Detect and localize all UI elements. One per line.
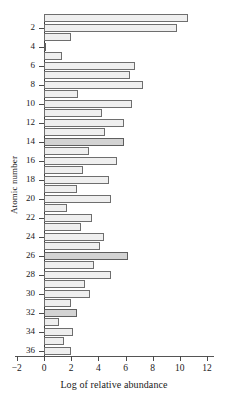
y-tick-label: 24 [0,232,35,241]
bar [44,261,94,269]
chart-container: Atomic number 24681012141618202224262830… [0,0,228,401]
bar [44,90,78,98]
x-tick [180,356,181,361]
x-tick [207,356,208,361]
y-tick-label: 32 [0,308,35,317]
bar [44,271,111,279]
bar [44,176,109,184]
x-axis-title: Log of relative abundance [0,379,228,390]
bar [44,318,59,326]
y-tick-label: 16 [0,156,35,165]
y-tick-label: 14 [0,137,35,146]
bar [44,71,130,79]
bar [44,109,102,117]
y-tick-label: 22 [0,213,35,222]
y-tick-label: 12 [0,118,35,127]
y-tick-label: 20 [0,194,35,203]
x-tick [71,356,72,361]
x-tick [98,356,99,361]
x-tick-label: 6 [114,363,138,373]
bar [44,33,71,41]
y-tick-label: 2 [0,23,35,32]
bar [44,138,124,146]
bar [44,223,81,231]
bar [44,233,104,241]
bar [44,24,177,32]
bar [44,347,71,355]
bar [44,328,73,336]
x-tick-label: 2 [59,363,83,373]
x-tick-label: 0 [32,363,56,373]
y-tick-label: 8 [0,80,35,89]
y-tick-label: 26 [0,251,35,260]
bar [44,195,111,203]
y-tick-label: 36 [0,346,35,355]
y-tick-label: 30 [0,289,35,298]
bar [44,52,62,60]
y-tick-label: 4 [0,42,35,51]
bar [44,81,143,89]
x-tick-label: 8 [141,363,165,373]
y-tick-label: 34 [0,327,35,336]
bar [44,157,117,165]
bar [44,62,135,70]
bar [44,280,85,288]
y-tick-label: 28 [0,270,35,279]
x-tick-label: −2 [5,363,29,373]
bar [44,119,124,127]
bar [44,290,90,298]
bar [44,337,64,345]
bar [44,204,67,212]
bar [44,214,92,222]
bar [44,100,132,108]
y-axis-title: Atomic number [9,130,19,240]
x-tick-label: 4 [86,363,110,373]
bar [44,128,105,136]
bar [44,299,71,307]
x-tick [44,356,45,361]
bar [44,252,128,260]
bar [44,43,46,51]
x-tick-label: 12 [195,363,219,373]
bar [44,185,77,193]
x-tick [17,356,18,361]
y-tick-label: 18 [0,175,35,184]
x-tick-label: 10 [168,363,192,373]
x-tick [126,356,127,361]
y-tick-label: 6 [0,61,35,70]
bar [44,309,77,317]
bar [44,166,83,174]
x-tick [153,356,154,361]
bar [44,14,188,22]
bar [44,242,100,250]
bar [44,147,89,155]
y-tick-label: 10 [0,99,35,108]
